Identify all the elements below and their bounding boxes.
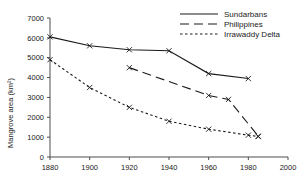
data-point-marker <box>127 105 132 110</box>
chart-canvas: Mangrove area (km²) 01000200030004000500… <box>0 0 306 182</box>
y-tick-label: 1000 <box>27 133 44 142</box>
y-tick-label: 3000 <box>27 93 44 102</box>
x-tick-label: 1960 <box>200 163 217 172</box>
series-irrawaddy-delta <box>47 57 260 139</box>
chart-legend: Sundarbans Philippines Irrawaddy Delta <box>180 10 281 39</box>
legend-label-philippines: Philippines <box>224 20 263 29</box>
legend-label-irrawaddy-delta: Irrawaddy Delta <box>224 30 281 39</box>
y-axis-ticks: 01000200030004000500060007000 <box>27 14 50 162</box>
y-tick-label: 5000 <box>27 53 44 62</box>
x-tick-label: 1880 <box>42 163 59 172</box>
data-point-marker <box>256 134 261 139</box>
data-point-marker <box>127 65 132 70</box>
y-tick-label: 6000 <box>27 34 44 43</box>
x-tick-label: 1980 <box>240 163 257 172</box>
y-tick-label: 7000 <box>27 14 44 23</box>
x-tick-label: 1940 <box>161 163 178 172</box>
legend-label-sundarbans: Sundarbans <box>224 10 267 19</box>
x-axis-ticks: 1880190019201940196019802000 <box>42 157 297 172</box>
y-tick-label: 0 <box>40 153 44 162</box>
y-tick-label: 2000 <box>27 113 44 122</box>
series-philippines <box>127 65 261 139</box>
y-tick-label: 4000 <box>27 73 44 82</box>
data-point-marker <box>87 85 92 90</box>
x-tick-label: 1900 <box>81 163 98 172</box>
mangrove-area-line-chart: Mangrove area (km²) 01000200030004000500… <box>0 0 306 182</box>
series-line <box>50 37 248 79</box>
y-axis-title: Mangrove area (km²) <box>6 77 15 148</box>
x-tick-label: 2000 <box>280 163 297 172</box>
x-tick-label: 1920 <box>121 163 138 172</box>
series-layer <box>47 34 260 139</box>
